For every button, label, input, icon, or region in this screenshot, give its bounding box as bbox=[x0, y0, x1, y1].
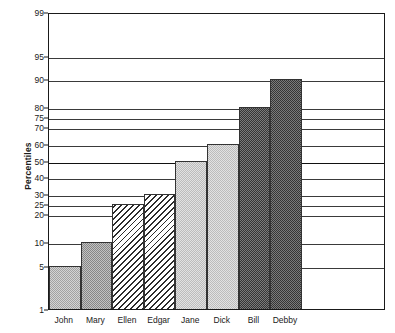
x-tick-label-mary: Mary bbox=[80, 315, 112, 325]
x-tick-label-ellen: Ellen bbox=[111, 315, 143, 325]
percentiles-bar-chart: Percentiles 9995908075706050403025201051… bbox=[0, 0, 395, 333]
y-tick-label-30: 30 bbox=[0, 190, 44, 200]
x-tick-label-edgar: Edgar bbox=[143, 315, 175, 325]
y-tick-label-70: 70 bbox=[0, 123, 44, 133]
y-tick-label-20: 20 bbox=[0, 210, 44, 220]
y-tick-label-60: 60 bbox=[0, 140, 44, 150]
bar-series bbox=[49, 14, 384, 309]
x-tick-label-debby: Debby bbox=[269, 315, 301, 325]
x-tick-label-bill: Bill bbox=[238, 315, 270, 325]
y-tick-label-5: 5 bbox=[0, 262, 44, 272]
x-tick-label-dick: Dick bbox=[206, 315, 238, 325]
y-tick-label-10: 10 bbox=[0, 238, 44, 248]
y-tick-label-75: 75 bbox=[0, 113, 44, 123]
plot-area bbox=[48, 13, 385, 310]
bar-mary bbox=[81, 242, 113, 309]
bar-jane bbox=[175, 161, 207, 310]
y-tick-label-25: 25 bbox=[0, 200, 44, 210]
bar-bill bbox=[239, 107, 271, 309]
y-tick-label-90: 90 bbox=[0, 75, 44, 85]
bar-dick bbox=[207, 144, 239, 309]
y-tick-label-95: 95 bbox=[0, 52, 44, 62]
x-tick-label-jane: Jane bbox=[174, 315, 206, 325]
x-tick-label-john: John bbox=[48, 315, 80, 325]
bar-debby bbox=[270, 79, 302, 309]
y-tick-label-40: 40 bbox=[0, 173, 44, 183]
y-tick-label-99: 99 bbox=[0, 8, 44, 18]
bar-ellen bbox=[112, 204, 144, 309]
y-tick-label-50: 50 bbox=[0, 157, 44, 167]
y-tick-label-1: 1 bbox=[0, 305, 44, 315]
bar-edgar bbox=[144, 194, 176, 309]
bar-john bbox=[49, 266, 81, 310]
y-tick-label-80: 80 bbox=[0, 103, 44, 113]
